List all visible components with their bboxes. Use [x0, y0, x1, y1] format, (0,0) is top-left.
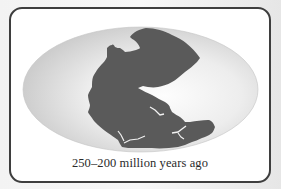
figure-caption: 250–200 million years ago	[9, 156, 271, 171]
